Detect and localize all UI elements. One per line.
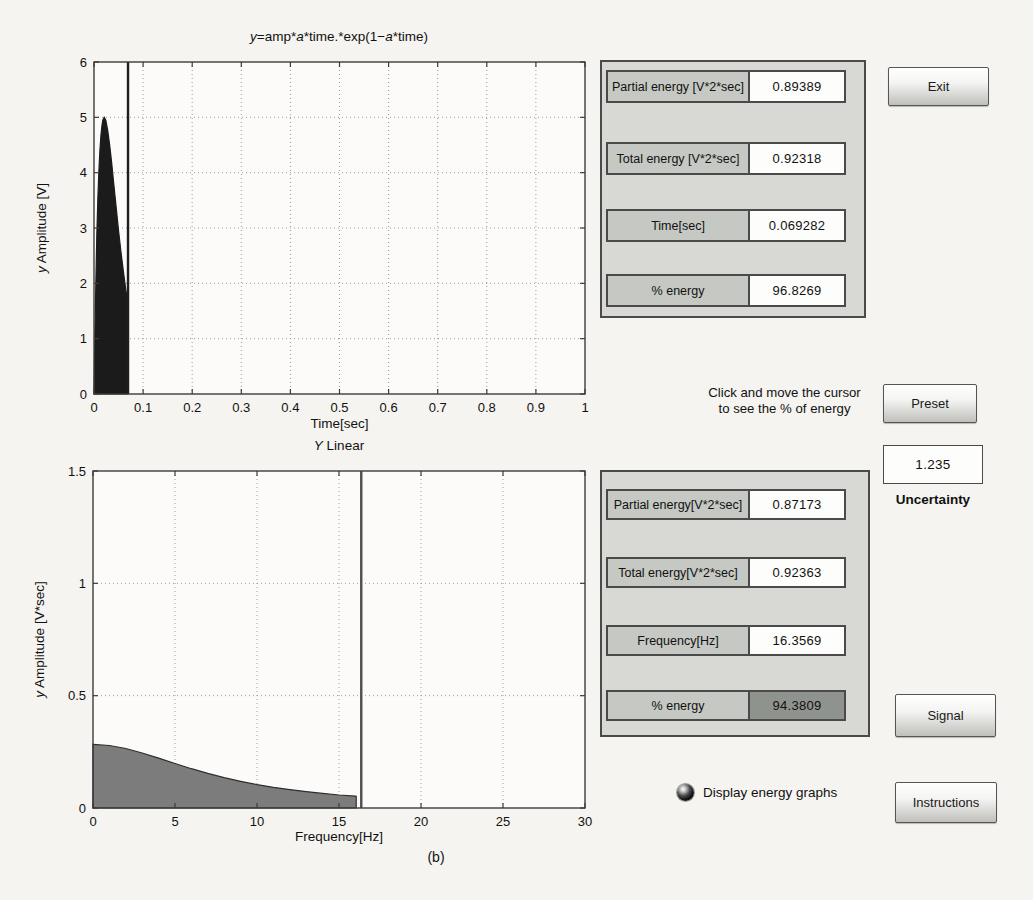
time-energy-row-0: Partial energy [V*2*sec]0.89389 <box>606 70 846 103</box>
svg-text:0.5: 0.5 <box>330 400 348 415</box>
display-energy-radio[interactable] <box>677 784 694 801</box>
time-energy-panel: Partial energy [V*2*sec]0.89389Total ene… <box>600 60 866 318</box>
time-energy-label-1: Total energy [V*2*sec] <box>608 144 750 173</box>
figure-caption: (b) <box>427 849 444 865</box>
time-energy-label-2: Time[sec] <box>608 211 750 240</box>
frequency-plot-y-label: y Amplitude [V*sec] <box>32 581 47 698</box>
instructions-button[interactable]: Instructions <box>895 782 997 823</box>
svg-text:3: 3 <box>80 221 87 236</box>
svg-text:1: 1 <box>79 576 86 591</box>
time-energy-value-2: 0.069282 <box>750 211 844 240</box>
freq-energy-row-0: Partial energy[V*2*sec]0.87173 <box>606 489 846 520</box>
time-plot: 00.10.20.30.40.50.60.70.80.910123456y=am… <box>34 29 589 431</box>
frequency-energy-panel: Partial energy[V*2*sec]0.87173Total ener… <box>600 470 870 737</box>
display-energy-radio-label: Display energy graphs <box>703 785 837 800</box>
svg-text:1.5: 1.5 <box>68 464 86 479</box>
svg-text:25: 25 <box>496 814 510 829</box>
svg-text:0.5: 0.5 <box>68 688 86 703</box>
preset-button[interactable]: Preset <box>883 384 977 423</box>
freq-energy-label-1: Total energy[V*2*sec] <box>608 559 750 586</box>
frequency-plot-y-tick-labels: 00.511.5 <box>68 464 86 816</box>
frequency-plot-title: Y Linear <box>314 438 365 453</box>
uncertainty-input[interactable]: 1.235 <box>883 445 983 484</box>
svg-text:0: 0 <box>80 387 87 402</box>
freq-energy-row-3: % energy94.3809 <box>606 690 846 721</box>
freq-energy-label-2: Frequency[Hz] <box>608 627 750 654</box>
svg-text:0.7: 0.7 <box>429 400 447 415</box>
figure-page: 00.10.20.30.40.50.60.70.80.910123456y=am… <box>0 0 1033 900</box>
frequency-plot: 05101520253000.511.5Y LinearFrequency[Hz… <box>32 438 592 865</box>
freq-energy-value-3: 94.3809 <box>750 692 844 719</box>
time-plot-x-tick-labels: 00.10.20.30.40.50.60.70.80.91 <box>90 400 588 415</box>
svg-text:10: 10 <box>250 814 264 829</box>
time-plot-y-tick-labels: 0123456 <box>80 55 87 402</box>
cursor-hint-line1: Click and move the cursor <box>687 385 882 401</box>
time-energy-value-0: 0.89389 <box>750 72 844 101</box>
svg-text:5: 5 <box>171 814 178 829</box>
svg-text:0.6: 0.6 <box>380 400 398 415</box>
cursor-hint: Click and move the cursor to see the % o… <box>687 385 882 417</box>
svg-text:0.4: 0.4 <box>281 400 299 415</box>
svg-text:0: 0 <box>90 400 97 415</box>
freq-energy-label-0: Partial energy[V*2*sec] <box>608 491 750 518</box>
svg-text:5: 5 <box>80 110 87 125</box>
svg-text:0.2: 0.2 <box>183 400 201 415</box>
uncertainty-label: Uncertainty <box>883 492 983 507</box>
frequency-plot-x-label: Frequency[Hz] <box>295 829 383 844</box>
time-plot-x-label: Time[sec] <box>310 416 368 431</box>
display-energy-radio-row: Display energy graphs <box>677 784 837 801</box>
svg-text:20: 20 <box>414 814 428 829</box>
svg-text:1: 1 <box>80 331 87 346</box>
svg-text:0.8: 0.8 <box>478 400 496 415</box>
time-energy-row-1: Total energy [V*2*sec]0.92318 <box>606 142 846 175</box>
svg-text:1: 1 <box>581 400 588 415</box>
freq-energy-value-1: 0.92363 <box>750 559 844 586</box>
time-energy-value-3: 96.8269 <box>750 276 844 305</box>
freq-energy-value-2: 16.3569 <box>750 627 844 654</box>
svg-text:0.3: 0.3 <box>232 400 250 415</box>
svg-text:0: 0 <box>79 801 86 816</box>
exit-button[interactable]: Exit <box>888 67 989 106</box>
time-energy-row-2: Time[sec]0.069282 <box>606 209 846 242</box>
svg-text:30: 30 <box>578 814 592 829</box>
time-energy-value-1: 0.92318 <box>750 144 844 173</box>
time-plot-title: y=amp*a*time.*exp(1−a*time) <box>249 29 428 44</box>
svg-text:0.9: 0.9 <box>527 400 545 415</box>
freq-energy-row-1: Total energy[V*2*sec]0.92363 <box>606 557 846 588</box>
time-energy-label-3: % energy <box>608 276 750 305</box>
freq-energy-value-0: 0.87173 <box>750 491 844 518</box>
cursor-hint-line2: to see the % of energy <box>687 401 882 417</box>
svg-text:6: 6 <box>80 55 87 70</box>
frequency-plot-x-tick-labels: 051015202530 <box>89 814 592 829</box>
charts-canvas: 00.10.20.30.40.50.60.70.80.910123456y=am… <box>0 0 598 900</box>
svg-text:2: 2 <box>80 276 87 291</box>
time-plot-y-label: y Amplitude [V] <box>34 183 49 274</box>
svg-text:4: 4 <box>80 165 87 180</box>
freq-energy-row-2: Frequency[Hz]16.3569 <box>606 625 846 656</box>
svg-text:15: 15 <box>332 814 346 829</box>
svg-text:0.1: 0.1 <box>134 400 152 415</box>
signal-button[interactable]: Signal <box>895 694 996 737</box>
freq-energy-label-3: % energy <box>608 692 750 719</box>
time-energy-row-3: % energy96.8269 <box>606 274 846 307</box>
time-energy-label-0: Partial energy [V*2*sec] <box>608 72 750 101</box>
svg-text:0: 0 <box>89 814 96 829</box>
